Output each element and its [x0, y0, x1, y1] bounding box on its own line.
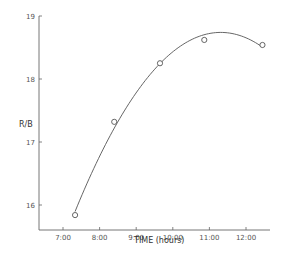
axes [39, 16, 270, 230]
x-tick-label: 8:00 [92, 234, 108, 242]
chart: 16171819 7:008:009:0010:0011:0012:00 R/B… [0, 0, 286, 257]
data-point-marker [202, 37, 207, 42]
y-axis-label: R/B [19, 120, 33, 129]
data-point-marker [72, 212, 77, 217]
y-tick-label: 18 [26, 76, 35, 84]
data-points [72, 37, 265, 217]
y-tick-label: 16 [26, 202, 35, 210]
y-tick-label: 17 [26, 139, 35, 147]
data-point-marker [260, 42, 265, 47]
y-tick-label: 19 [26, 13, 35, 21]
data-point-marker [157, 61, 162, 66]
x-tick-label: 12:00 [236, 234, 256, 242]
x-tick-label: 7:00 [55, 234, 71, 242]
x-axis-label: TIME (hours) [133, 236, 184, 245]
data-point-marker [112, 119, 117, 124]
x-tick-label: 11:00 [199, 234, 219, 242]
fit-curve [75, 32, 262, 211]
y-axis-ticks: 16171819 [26, 13, 42, 210]
